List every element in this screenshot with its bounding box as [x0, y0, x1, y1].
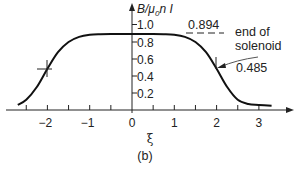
y-tick-label: 0.8 [137, 36, 154, 50]
x-tick-label: 1 [171, 116, 178, 130]
y-tick-label: 0.2 [137, 87, 154, 101]
x-tick-labels: −2−10123 [39, 116, 263, 130]
x-axis-arrow-icon [286, 107, 294, 113]
annotation-end-of: end of [235, 25, 270, 39]
y-tick-label: 0.4 [137, 70, 154, 84]
annotation-arrowhead-icon [217, 63, 226, 68]
x-tick-label: 2 [213, 116, 220, 130]
annotation-solenoid: solenoid [235, 39, 282, 53]
x-axis-label: ξ [147, 132, 154, 146]
y-tick-label: 1.0 [137, 18, 154, 32]
y-tick-label: 0.6 [137, 53, 154, 67]
x-tick-label: −2 [39, 116, 53, 130]
figure-caption: (b) [137, 149, 152, 163]
annotation-0894: 0.894 [188, 18, 219, 32]
annotation-0485: 0.485 [236, 61, 267, 75]
y-axis-label: B/μ0n I [137, 2, 173, 18]
y-axis-arrow-icon [129, 3, 135, 11]
x-tick-label: 3 [256, 116, 263, 130]
x-tick-label: 0 [129, 116, 136, 130]
x-tick-label: −1 [81, 116, 95, 130]
x-ticks [26, 105, 259, 110]
y-ticks: 0.20.40.60.81.0 [132, 18, 154, 101]
chart: −2−10123 0.20.40.60.81.0 B/μ0n I 0.894 e… [0, 0, 295, 174]
